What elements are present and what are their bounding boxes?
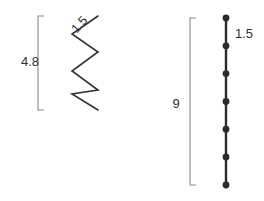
diagram-canvas: 4.8 1.5 9 1.5: [0, 0, 264, 201]
chain-dot: [223, 42, 230, 49]
right-segment-label: 1.5: [235, 26, 253, 41]
chain-dot: [223, 126, 230, 133]
bead-chain-figure-group: 9 1.5: [172, 15, 253, 189]
chain-dot: [223, 98, 230, 105]
left-bracket-label: 4.8: [21, 54, 39, 69]
chain-dot: [223, 182, 230, 189]
chain-dot: [223, 15, 230, 22]
right-bracket-label: 9: [172, 96, 179, 111]
chain-dot: [223, 154, 230, 161]
right-bracket-shape: [190, 18, 196, 185]
left-segment-label: 1.5: [68, 13, 90, 35]
zigzag-figure-group: 4.8 1.5: [21, 13, 98, 110]
chain-dot: [223, 70, 230, 77]
right-bracket: [190, 18, 196, 185]
diagram-root: 4.8 1.5 9 1.5: [0, 0, 264, 201]
